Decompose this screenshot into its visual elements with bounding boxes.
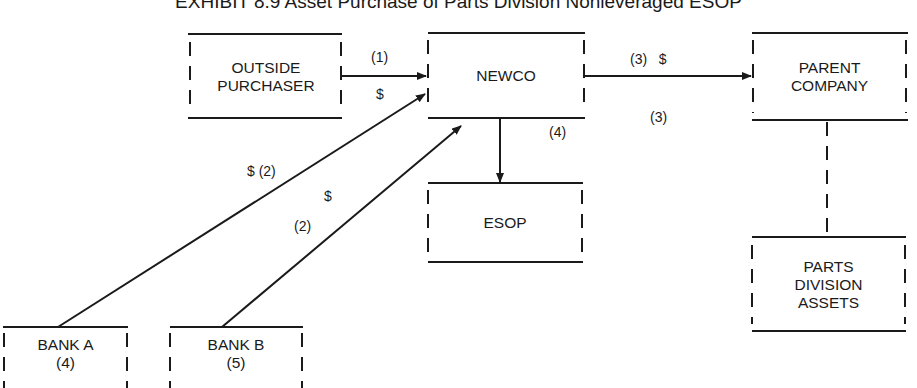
edge-label-bank-b-dollar: $ (324, 188, 332, 204)
edge-label-step-3-below: (3) (650, 109, 667, 125)
bank-a-label: BANK A (4) (4, 334, 127, 374)
arrow-bank-a-to-newco (58, 94, 425, 327)
parts-division-assets-label: PARTS DIVISION ASSETS (752, 243, 905, 327)
edge-label-step-4: (4) (549, 124, 566, 140)
edge-label-bank-b-step: (2) (294, 218, 311, 234)
edge-label-step-3-dollar: (3) $ (630, 51, 667, 67)
outside-purchaser-label: OUTSIDE PURCHASER (190, 40, 342, 114)
parent-company-label: PARENT COMPANY (753, 40, 906, 114)
bank-b-label: BANK B (5) (170, 334, 302, 374)
edge-label-step-1: (1) (371, 49, 388, 65)
edge-label-dollar-1: $ (376, 86, 384, 102)
edge-label-bank-a: $ (2) (247, 163, 276, 179)
arrow-bank-b-to-newco (222, 126, 461, 327)
esop-label: ESOP (428, 188, 582, 258)
newco-label: NEWCO (428, 40, 584, 112)
